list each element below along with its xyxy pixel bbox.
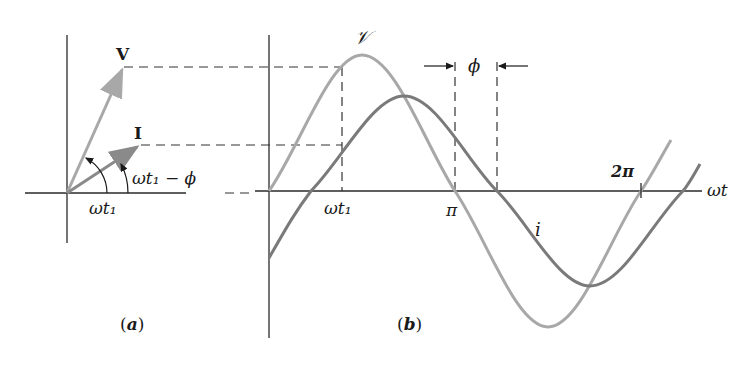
angle-arc-wt1-minus-phi — [121, 164, 128, 193]
phasor-panel: V I ωt₁ − ϕ ωt₁ (a) — [25, 35, 197, 334]
angle-wt1-minus-phi-label: ωt₁ − ϕ — [132, 168, 197, 188]
phi-label: ϕ — [468, 55, 480, 76]
voltage-phasor-label: V — [115, 44, 130, 64]
ac-phasor-diagram: V I ωt₁ − ϕ ωt₁ (a) ϕ 𝒱 i ωt ωt₁ π 2π ( — [0, 0, 754, 365]
tick-2pi-label: 2π — [610, 162, 634, 181]
tick-wt1-label: ωt₁ — [324, 198, 352, 218]
waveform-panel: ϕ 𝒱 i ωt ωt₁ π 2π (b) — [255, 26, 728, 338]
panel-a-caption: (a) — [120, 314, 144, 334]
time-axis-label: ωt — [707, 180, 728, 200]
angle-arc-wt1 — [86, 158, 107, 193]
panel-b-caption: (b) — [397, 314, 422, 334]
angle-wt1-label: ωt₁ — [89, 198, 117, 218]
current-phasor-label: I — [134, 123, 142, 143]
tick-pi-label: π — [445, 200, 458, 220]
voltage-curve-label: 𝒱 — [354, 26, 376, 48]
current-curve-label: i — [535, 219, 541, 240]
